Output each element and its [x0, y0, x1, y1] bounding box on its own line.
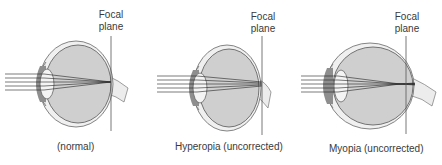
focal-label-line2: plane — [91, 21, 131, 33]
lens — [334, 70, 348, 102]
caption-myopia: Myopia (uncorrected) — [329, 143, 423, 155]
focal-plane-label-hyperopia: Focal plane — [243, 11, 283, 35]
myopia-eye — [301, 36, 436, 134]
optic-nerve — [412, 78, 436, 106]
normal-eye — [5, 36, 128, 131]
focal-label-line2: plane — [387, 23, 427, 35]
focal-label-line1: Focal — [243, 11, 283, 23]
focal-plane-label-normal: Focal plane — [91, 9, 131, 33]
focal-label-line2: plane — [243, 23, 283, 35]
focal-label-line1: Focal — [387, 11, 427, 23]
caption-hyperopia: Hyperopia (uncorrected) — [175, 141, 283, 153]
vitreous — [199, 49, 259, 127]
iris — [323, 68, 333, 104]
focal-plane-label-myopia: Focal plane — [387, 11, 427, 35]
lens — [40, 69, 54, 99]
hyperopia-eye — [157, 36, 271, 135]
focal-label-line1: Focal — [91, 9, 131, 21]
caption-normal: (normal) — [57, 141, 94, 153]
